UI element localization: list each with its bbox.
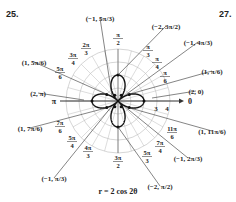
point-label: (−1, 2π/3) (174, 155, 203, 163)
callout-line (124, 106, 188, 158)
angle-label-den: 3 (145, 157, 149, 164)
callout-line (118, 127, 160, 186)
point-label: (−2, 3π/2) (152, 23, 181, 31)
angle-label-den: 4 (70, 142, 74, 149)
data-point (105, 106, 108, 109)
angle-label-den: 6 (58, 127, 62, 134)
axis-label-pi: π (52, 97, 57, 106)
polar-plot: 0π34π6π4π3π22π33π45π67π65π44π33π25π37π41… (0, 0, 236, 202)
callout-line (118, 26, 166, 75)
data-point (91, 100, 94, 103)
angle-label-num: π (116, 31, 120, 38)
angle-label-num: π (155, 55, 159, 62)
data-point (120, 94, 123, 97)
radial-tick-3: 3 (154, 105, 158, 113)
point-label: (−1, 4π/3) (184, 39, 213, 47)
callout-line (54, 106, 112, 178)
data-point (128, 93, 131, 96)
point-label: (1, 11π/6) (198, 128, 226, 136)
angle-label-num: π (163, 69, 167, 76)
equation-label: r = 2 cos 2θ (99, 187, 138, 196)
angle-label-den: 3 (86, 152, 90, 159)
radial-tick-4: 4 (165, 105, 169, 113)
angle-label-num: 7π (157, 139, 164, 146)
radial-gridline (118, 101, 155, 138)
point-label: (1, π/6) (202, 68, 224, 76)
angle-label-num: 3π (115, 154, 122, 161)
angle-label-num: 3π (70, 51, 77, 58)
angle-label-num: 11π (167, 125, 177, 132)
axis-arrow-icon (179, 99, 184, 104)
angle-label-num: 5π (144, 149, 151, 156)
angle-label-den: 3 (146, 51, 150, 58)
point-label: (−1, 5π/3) (86, 15, 115, 23)
axis-label-zero: 0 (188, 97, 192, 106)
callout-line (100, 18, 112, 96)
angle-label-den: 4 (71, 59, 75, 66)
point-label: (1, 7π/6) (18, 125, 43, 133)
data-point (113, 105, 116, 108)
point-label: (2, 0) (188, 88, 204, 96)
data-point (143, 100, 146, 103)
data-point (128, 106, 131, 109)
point-label: (2, π) (30, 90, 46, 98)
point-label: (1, 5π/6) (22, 59, 47, 67)
callout-line (124, 42, 198, 96)
angle-label-den: 2 (116, 39, 119, 46)
data-point (105, 93, 108, 96)
angle-label-den: 6 (170, 133, 174, 140)
angle-label-den: 4 (158, 147, 162, 154)
angle-label-den: 3 (84, 49, 88, 56)
point-label: (−2, π/2) (148, 183, 174, 191)
angle-label-den: 2 (116, 162, 119, 169)
radial-gridline (81, 64, 118, 101)
angle-label-num: 4π (85, 144, 92, 151)
angle-label-num: 5π (69, 134, 76, 141)
radial-gridline (81, 101, 118, 138)
data-point (120, 105, 123, 108)
point-label: (−1, π/3) (42, 175, 68, 183)
angle-label-num: 2π (83, 41, 90, 48)
angle-label-num: 5π (57, 65, 64, 72)
data-point (113, 94, 116, 97)
